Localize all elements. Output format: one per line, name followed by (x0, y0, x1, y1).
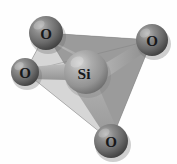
sio4-tetrahedron-figure: Si O O O (0, 0, 177, 164)
si-sphere (64, 50, 108, 94)
tetrahedron-canvas: Si O O O (0, 0, 177, 164)
o-left-sphere (11, 58, 39, 86)
o-bottom-sphere (94, 124, 128, 158)
o-top-left-sphere (29, 16, 63, 50)
o-top-right-sphere (136, 24, 168, 56)
